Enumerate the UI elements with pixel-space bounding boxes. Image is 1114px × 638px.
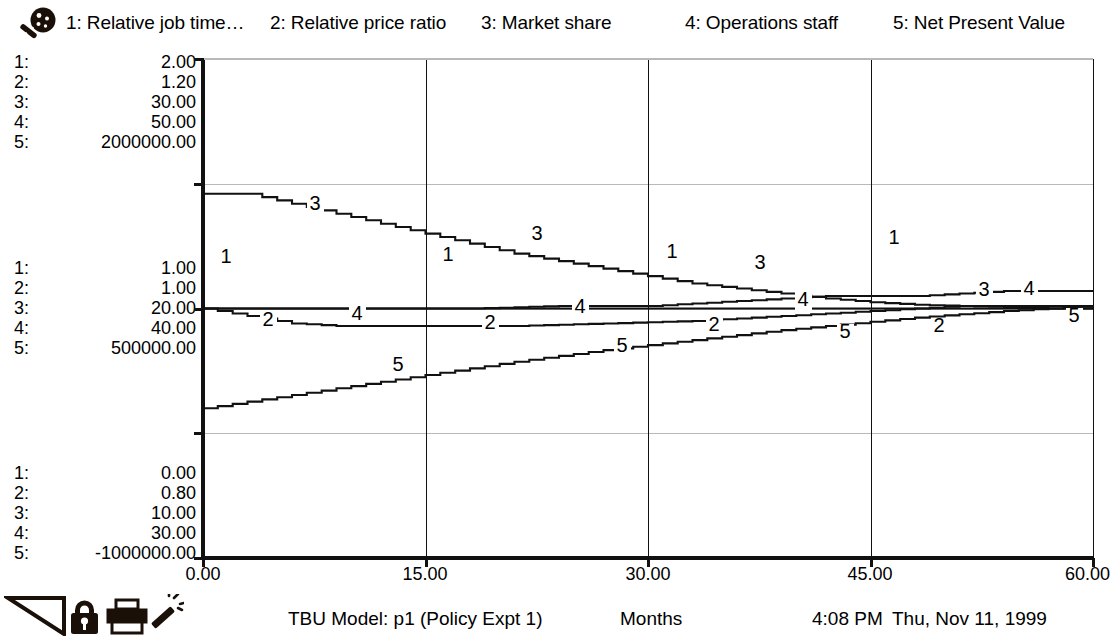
timestamp-time: 4:08 PM — [812, 608, 883, 630]
magic-wand-icon — [151, 594, 184, 629]
chart-plot-area[interactable]: 33331111444422225555 — [0, 0, 1114, 580]
svg-text:3: 3 — [531, 222, 542, 244]
svg-text:5: 5 — [1068, 304, 1079, 326]
svg-text:5: 5 — [392, 353, 403, 375]
chart-svg: 33331111444422225555 — [0, 0, 1114, 580]
model-title: TBU Model: p1 (Policy Expt 1) — [288, 608, 542, 630]
svg-text:5: 5 — [839, 320, 850, 342]
x-tick-label-0: 0.00 — [163, 564, 243, 585]
triangle-tool-icon — [8, 598, 64, 634]
svg-text:4: 4 — [574, 295, 585, 317]
x-tick-label-3: 45.00 — [830, 564, 910, 585]
printer-icon — [108, 600, 146, 633]
lock-icon — [71, 601, 98, 635]
tool-icon-bar — [4, 594, 184, 636]
svg-text:3: 3 — [754, 251, 765, 273]
timestamp-date: Thu, Nov 11, 1999 — [892, 608, 1047, 630]
svg-text:2: 2 — [708, 313, 719, 335]
svg-text:1: 1 — [220, 245, 231, 267]
series-markers: 33331111444422225555 — [218, 192, 1083, 375]
footer-bar: TBU Model: p1 (Policy Expt 1) Months 4:0… — [0, 594, 1114, 638]
svg-text:1: 1 — [666, 240, 677, 262]
svg-text:4: 4 — [351, 302, 362, 324]
svg-text:3: 3 — [309, 192, 320, 214]
x-tick-label-4: 60.00 — [1040, 564, 1110, 585]
svg-text:2: 2 — [262, 308, 273, 330]
svg-text:1: 1 — [442, 243, 453, 265]
svg-text:2: 2 — [933, 314, 944, 336]
svg-text:4: 4 — [797, 288, 808, 310]
svg-text:2: 2 — [484, 311, 495, 333]
svg-text:3: 3 — [978, 278, 989, 300]
svg-text:4: 4 — [1023, 277, 1034, 299]
x-axis-label: Months — [620, 608, 682, 630]
svg-text:5: 5 — [616, 334, 627, 356]
x-tick-label-2: 30.00 — [608, 564, 688, 585]
x-tick-label-1: 15.00 — [385, 564, 465, 585]
svg-text:1: 1 — [888, 226, 899, 248]
